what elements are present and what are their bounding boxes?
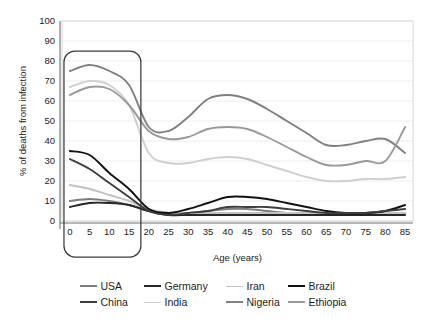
y-tick-30: 30 — [44, 155, 55, 166]
series-line-china — [70, 159, 405, 215]
x-tick-30: 30 — [183, 226, 194, 237]
legend-item-china[interactable]: China — [80, 296, 144, 308]
y-axis-title: % of deaths from infection — [17, 66, 28, 176]
x-tick-10: 10 — [104, 226, 115, 237]
y-tick-50: 50 — [44, 115, 55, 126]
legend-item-iran[interactable]: Iran — [226, 280, 288, 292]
y-tick-40: 40 — [44, 135, 55, 146]
y-tick-70: 70 — [44, 75, 55, 86]
y-tick-100: 100 — [39, 15, 55, 26]
y-tick-0: 0 — [50, 215, 55, 226]
legend-item-nigeria[interactable]: Nigeria — [226, 296, 288, 308]
x-tick-80: 80 — [380, 226, 391, 237]
legend-swatch-icon — [80, 301, 97, 303]
legend-item-germany[interactable]: Germany — [144, 280, 226, 292]
chart-legend: USAGermanyIranBrazilChinaIndiaNigeriaEth… — [0, 272, 437, 329]
legend-label: Brazil — [309, 280, 335, 292]
legend-label: USA — [101, 280, 123, 292]
legend-label: Iran — [247, 280, 265, 292]
legend-swatch-icon — [144, 285, 161, 287]
legend-swatch-icon — [288, 301, 305, 303]
line-chart: 0102030405060708090100 05101520253035404… — [0, 0, 437, 272]
x-tick-45: 45 — [242, 226, 253, 237]
x-tick-40: 40 — [222, 226, 233, 237]
legend-swatch-icon — [226, 301, 243, 303]
legend-swatch-icon — [144, 302, 161, 303]
y-tick-90: 90 — [44, 35, 55, 46]
y-tick-10: 10 — [44, 195, 55, 206]
x-tick-85: 85 — [400, 226, 411, 237]
x-axis-title: Age (years) — [213, 252, 262, 263]
x-tick-50: 50 — [262, 226, 273, 237]
legend-swatch-icon — [226, 286, 243, 287]
x-tick-75: 75 — [360, 226, 371, 237]
y-tick-20: 20 — [44, 175, 55, 186]
x-tick-0: 0 — [67, 226, 72, 237]
series-line-ethiopia — [70, 86, 405, 165]
x-tick-60: 60 — [301, 226, 312, 237]
legend-row: USAGermanyIranBrazil — [80, 278, 358, 294]
legend-label: Ethiopia — [309, 296, 347, 308]
legend-swatch-icon — [80, 285, 97, 287]
y-tick-80: 80 — [44, 55, 55, 66]
x-tick-55: 55 — [282, 226, 293, 237]
x-axis-tick-labels: 0510152025303540455055606570758085 — [67, 226, 410, 237]
legend-item-brazil[interactable]: Brazil — [288, 280, 358, 292]
y-axis-tick-labels: 0102030405060708090100 — [39, 15, 55, 226]
legend-swatch-icon — [288, 285, 305, 287]
x-tick-35: 35 — [203, 226, 214, 237]
x-tick-65: 65 — [321, 226, 332, 237]
series-line-nigeria — [70, 65, 405, 153]
legend-item-usa[interactable]: USA — [80, 280, 144, 292]
series-lines — [70, 65, 405, 215]
y-tick-60: 60 — [44, 95, 55, 106]
legend-item-india[interactable]: India — [144, 296, 226, 308]
x-tick-20: 20 — [143, 226, 154, 237]
legend-row: ChinaIndiaNigeriaEthiopia — [80, 294, 358, 310]
x-tick-70: 70 — [341, 226, 352, 237]
legend-label: Nigeria — [247, 296, 280, 308]
x-tick-25: 25 — [163, 226, 174, 237]
x-tick-5: 5 — [87, 226, 92, 237]
x-tick-15: 15 — [124, 226, 135, 237]
legend-label: China — [101, 296, 128, 308]
legend-item-ethiopia[interactable]: Ethiopia — [288, 296, 358, 308]
chart-figure: 0102030405060708090100 05101520253035404… — [0, 0, 437, 329]
legend-label: India — [165, 296, 188, 308]
legend-label: Germany — [165, 280, 208, 292]
